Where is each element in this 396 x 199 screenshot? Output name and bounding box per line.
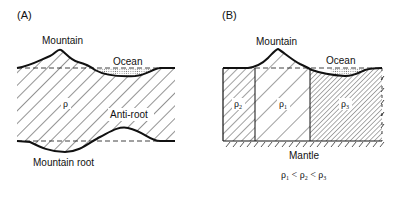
ocean-label: Ocean	[113, 56, 142, 67]
mantle-label: Mantle	[289, 150, 319, 161]
panel-b-label: (B)	[222, 9, 237, 21]
isostasy-diagram: (A) Mountain Ocean ρ Anti-root Mountain …	[0, 0, 396, 199]
panel-a: (A) Mountain Ocean ρ Anti-root Mountain …	[10, 9, 185, 168]
panel-a-label: (A)	[17, 9, 32, 21]
mountain-label: Mountain	[42, 35, 83, 46]
mountain-label-b: Mountain	[256, 36, 297, 47]
crust-fill	[10, 40, 185, 160]
density-label: ρ	[63, 98, 68, 109]
mountain-root-label: Mountain root	[33, 157, 94, 168]
ocean-label-b: Ocean	[326, 55, 355, 66]
mantle-hatch	[226, 142, 384, 147]
anti-root-label: Anti-root	[110, 109, 148, 120]
density-relation: ρ1 < ρ2 < ρ3	[281, 169, 326, 181]
panel-b: (B)	[222, 9, 384, 181]
